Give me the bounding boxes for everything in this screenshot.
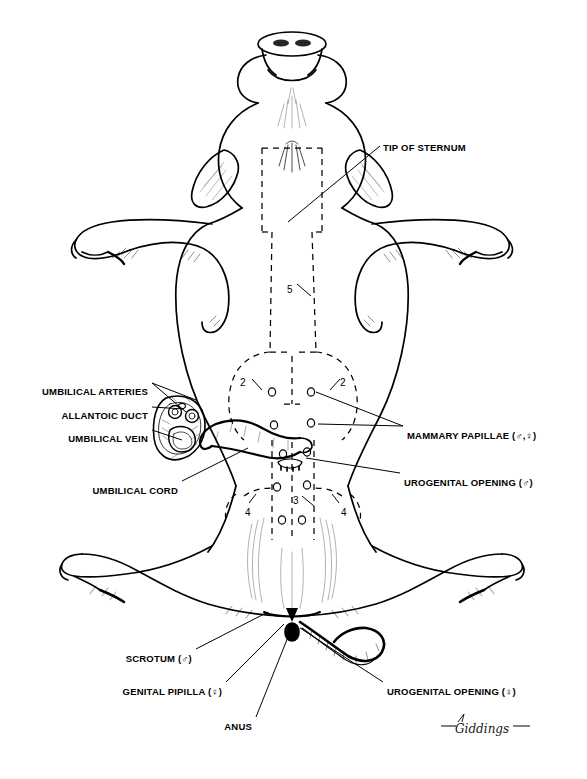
label-urogenital-opening-f: UROGENITAL OPENING (♀) [387,686,516,697]
label-urogenital-opening-m: UROGENITAL OPENING (♂) [404,477,533,488]
callout-4-right: 4 [341,507,347,518]
nostril-right [295,39,311,46]
label-genital-papilla-f: GENITAL PIPILLA (♀) [123,686,222,697]
label-scrotum-m: SCROTUM (♂) [126,653,192,664]
label-mammary-papillae: MAMMARY PAPILLAE (♂,♀) [407,430,536,441]
label-anus: ANUS [224,721,252,732]
callout-2-left: 2 [240,377,246,388]
callout-3: 3 [293,495,299,506]
artist-signature: Giddings [455,722,509,736]
label-umbilical-arteries: UMBILICAL ARTERIES [42,386,148,397]
label-umbilical-cord: UMBILICAL CORD [93,485,178,496]
callout-2-right: 2 [340,377,346,388]
label-allantoic-duct: ALLANTOIC DUCT [61,410,148,421]
callout-4-left: 4 [245,507,251,518]
nostril-left [273,39,289,46]
callout-5: 5 [287,284,293,295]
label-umbilical-vein: UMBILICAL VEIN [68,433,148,444]
label-tip-of-sternum: TIP OF STERNUM [383,142,466,153]
